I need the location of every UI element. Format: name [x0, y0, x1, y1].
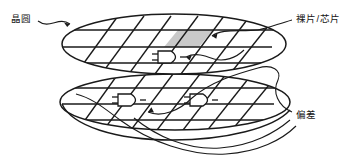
wafer-leader-line — [38, 21, 70, 27]
label-deviation: 偏差 — [296, 110, 317, 120]
lower-wafer-group — [58, 74, 290, 134]
label-die-chip: 裸片/芯片 — [296, 14, 340, 24]
upper-wafer-group — [58, 14, 286, 78]
wafer-diagram-canvas — [0, 0, 354, 162]
label-wafer: 晶圆 — [11, 14, 32, 24]
wafer-stack-diagram: 晶圆 裸片/芯片 偏差 — [0, 0, 354, 162]
